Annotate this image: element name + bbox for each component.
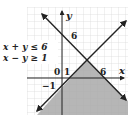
tick-label-origin: 0 — [54, 67, 60, 77]
tick-label-y-6: 6 — [71, 31, 77, 41]
tick-label-y-neg-1: −1 — [42, 81, 56, 91]
inequality-graph: y x 6 0 1 6 −1 x + y ≤ 6 x − y ≥ 1 — [0, 0, 131, 118]
tick-label-x-1: 1 — [64, 67, 70, 77]
inequality-2: x − y ≥ 1 — [2, 53, 47, 63]
inequality-1: x + y ≤ 6 — [2, 42, 48, 52]
y-axis-label: y — [65, 10, 73, 21]
x-axis-label: x — [118, 65, 126, 76]
tick-label-x-6: 6 — [100, 67, 106, 77]
